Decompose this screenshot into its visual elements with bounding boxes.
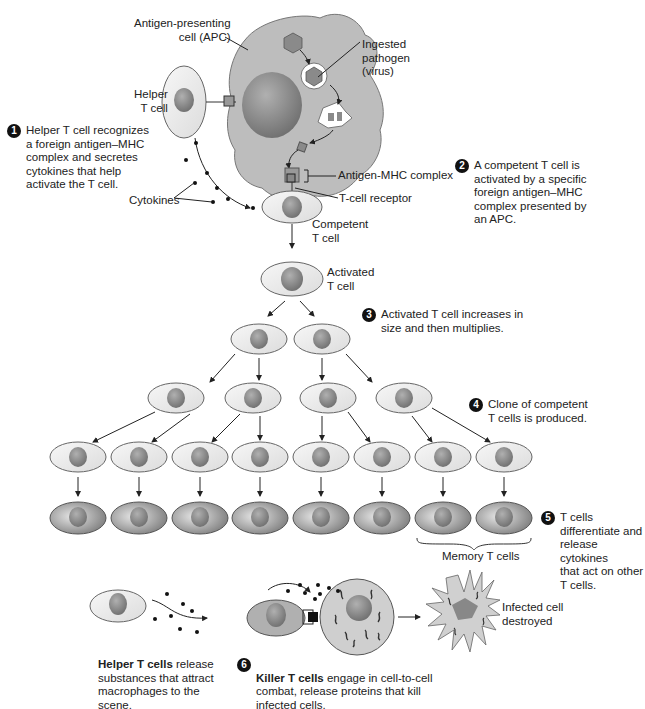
clone-row-4 — [50, 442, 532, 472]
clone-row-2 — [231, 324, 350, 354]
memory-t-cells-label: Memory T cells — [442, 550, 520, 564]
step-2: 2 A competent T cell is activated by a s… — [474, 159, 587, 227]
step-text: Activated T cell increases in size and t… — [381, 308, 523, 334]
helper-t-cells-bold: Helper T cells — [98, 658, 173, 670]
tcr-label: T-cell receptor — [339, 192, 412, 206]
memory-brace — [417, 538, 531, 550]
step-1: 1 Helper T cell recognizes a foreign ant… — [26, 124, 149, 192]
step-number-badge: 1 — [7, 124, 21, 138]
helper-t-cell-label: Helper T cell — [134, 88, 168, 115]
step-4: 4 Clone of competent T cells is produced… — [488, 398, 588, 425]
step-3: 3 Activated T cell increases in size and… — [381, 308, 523, 335]
helper-t-cell — [162, 66, 222, 138]
infected-destroyed-label: Infected cell destroyed — [502, 601, 563, 628]
step-text: Clone of competent T cells is produced. — [488, 398, 588, 424]
antigen-mhc-label: Antigen-MHC complex — [338, 169, 453, 183]
apc-label: Antigen-presenting cell (APC) — [134, 17, 231, 44]
destroyed-infected-cell — [426, 570, 500, 652]
competent-t-cell-label: Competent T cell — [312, 218, 368, 245]
killer-t-cell-combat — [247, 579, 420, 655]
step-text: Helper T cell recognizes a foreign antig… — [26, 124, 149, 190]
helper-t-cell-release — [90, 590, 207, 634]
step-text: T cells differentiate and release cytoki… — [560, 511, 643, 591]
step-number-badge: 6 — [237, 658, 251, 672]
step-number-badge: 4 — [469, 398, 483, 412]
activated-t-cell-label: Activated T cell — [327, 266, 374, 293]
activated-t-cell — [261, 262, 323, 296]
step-number-badge: 2 — [455, 159, 469, 173]
step-text: A competent T cell is activated by a spe… — [474, 159, 587, 225]
step-number-badge: 5 — [541, 511, 555, 525]
helper-t-cells-note: Helper T cells release substances that a… — [98, 658, 214, 709]
killer-t-cells-bold: Killer T cells — [256, 672, 324, 684]
step-number-badge: 3 — [362, 308, 376, 322]
cytokines-label: Cytokines — [129, 194, 180, 208]
step-5: 5 T cells differentiate and release cyto… — [560, 511, 645, 592]
clone-row-3 — [148, 383, 432, 413]
ingested-pathogen-label: Ingested pathogen (virus) — [362, 38, 410, 79]
differentiated-row — [50, 502, 532, 534]
step-6: 6Killer T cells engage in cell-to-cell c… — [256, 658, 432, 709]
